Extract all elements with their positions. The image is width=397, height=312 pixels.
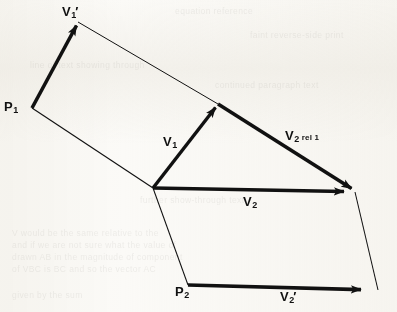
construction-line-lower-left	[153, 188, 188, 285]
vector-diagram-figure: equation referencefaint reverse-side pri…	[0, 0, 397, 312]
label-v2-rel-1-qualifier: rel 1	[302, 133, 319, 142]
construction-lines	[32, 22, 378, 290]
vector-v1-prime	[32, 26, 77, 109]
label-p1-sub: 1	[13, 105, 18, 115]
label-v1: V1	[163, 133, 177, 150]
label-p2-sub: 2	[184, 290, 189, 300]
vector-arrows	[32, 26, 361, 290]
label-v1-base: V	[163, 134, 172, 149]
label-p1-base: P	[4, 99, 13, 114]
label-v2-sub: 2	[252, 200, 257, 210]
label-v1-prime-base: V	[62, 4, 71, 19]
label-p2-base: P	[175, 284, 184, 299]
label-v2: V2	[243, 193, 257, 210]
vector-v2	[153, 188, 344, 192]
label-v2-base: V	[243, 194, 252, 209]
vector-v2-prime	[188, 285, 361, 290]
construction-line-lower-right	[355, 192, 378, 290]
vector-v2-rel-1	[218, 104, 352, 189]
label-v2-prime: V2′	[280, 288, 296, 305]
label-v1-sub: 1	[172, 140, 177, 150]
construction-line-upper-bottom	[32, 108, 153, 188]
label-v2-rel-1-sub: 2	[294, 134, 299, 144]
vector-canvas	[0, 0, 397, 312]
label-v1-prime-mark: ′	[75, 4, 78, 19]
label-v2-prime-mark: ′	[293, 289, 296, 304]
label-p2: P2	[175, 283, 189, 300]
label-v2-prime-base: V	[280, 289, 289, 304]
label-v2-rel-1-base: V	[285, 128, 294, 143]
label-v1-prime: V1′	[62, 3, 78, 20]
label-p1: P1	[4, 98, 18, 115]
construction-line-upper-top	[78, 22, 218, 104]
label-v2-rel-1: V2rel 1	[285, 127, 319, 144]
